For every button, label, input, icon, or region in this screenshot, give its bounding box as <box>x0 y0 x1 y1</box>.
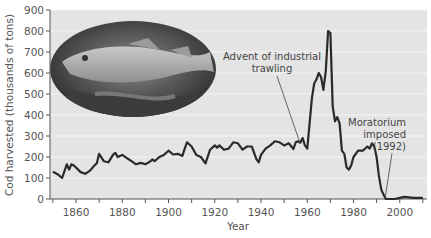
y-axis-title: Cod harvested (thousands of tons) <box>3 14 15 196</box>
y-tick-label: 900 <box>24 4 44 16</box>
x-tick-label: 1980 <box>340 206 367 218</box>
y-tick-label: 500 <box>24 88 44 100</box>
x-tick-label: 1960 <box>294 206 321 218</box>
x-tick-label: 1920 <box>201 206 228 218</box>
y-tick-label: 300 <box>24 130 44 142</box>
x-tick-label: 1860 <box>63 206 90 218</box>
x-tick-label: 1900 <box>155 206 182 218</box>
svg-text:Advent of industrial: Advent of industrial <box>223 51 321 62</box>
svg-text:Moratorium: Moratorium <box>348 117 406 128</box>
x-tick-label: 1880 <box>109 206 136 218</box>
x-tick-label: 2000 <box>386 206 413 218</box>
cod-harvest-chart: 0100200300400500600700800900 18601880190… <box>0 0 431 238</box>
svg-text:(1992): (1992) <box>373 141 406 152</box>
y-tick-label: 0 <box>37 193 44 205</box>
x-axis-title: Year <box>226 220 250 232</box>
y-tick-label: 800 <box>24 25 44 37</box>
x-axis-ticks: 18601880190019201940196019802000 <box>53 199 423 218</box>
y-tick-label: 700 <box>24 46 44 58</box>
y-tick-label: 100 <box>24 172 44 184</box>
y-tick-label: 200 <box>24 151 44 163</box>
svg-text:trawling: trawling <box>252 63 293 74</box>
y-tick-label: 400 <box>24 109 44 121</box>
svg-text:imposed: imposed <box>363 129 406 140</box>
x-tick-label: 1940 <box>248 206 275 218</box>
y-axis-ticks: 0100200300400500600700800900 <box>24 4 50 205</box>
y-tick-label: 600 <box>24 67 44 79</box>
